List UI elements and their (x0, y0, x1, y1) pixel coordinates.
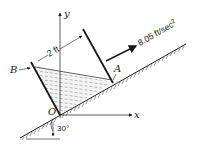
tank-right-wall (83, 29, 113, 83)
b-pointer (19, 68, 30, 70)
width-dimension-line-right (60, 36, 82, 49)
acceleration-label: 8.05 ft/sec2 (136, 17, 178, 47)
angle-marker (26, 119, 60, 139)
diagram-canvas: y x O B A 2 ft 8.05 ft/sec2 30° (0, 0, 198, 149)
width-dimension-line (38, 55, 48, 61)
point-a-label: A (113, 63, 121, 74)
incline-surface (20, 44, 186, 140)
x-axis-label: x (134, 109, 140, 120)
a-pointer (113, 74, 116, 80)
origin-label: O (48, 106, 56, 117)
acceleration-arrow (106, 46, 136, 61)
width-label: 2 ft (45, 44, 61, 59)
point-b-label: B (9, 64, 17, 75)
y-axis-label: y (63, 8, 70, 19)
angle-label: 30° (57, 124, 69, 133)
